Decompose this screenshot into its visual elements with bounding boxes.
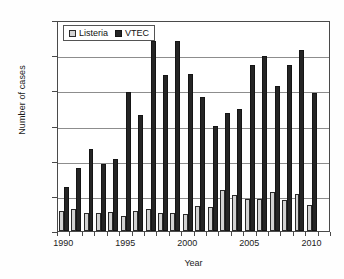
x-tick-mark: [57, 232, 58, 236]
x-tick-label: 1995: [105, 238, 145, 248]
x-tick-label: 2010: [291, 238, 331, 248]
bar-vtec-1998: [163, 75, 168, 231]
legend-item-vtec: VTEC: [115, 28, 149, 38]
x-tick-mark: [243, 232, 244, 236]
x-tick-mark: [206, 232, 207, 236]
x-tick-mark: [231, 232, 232, 236]
x-tick-mark: [330, 232, 331, 236]
bar-vtec-2009: [299, 50, 304, 231]
x-tick-label: 2005: [229, 238, 269, 248]
bar-vtec-1994: [113, 159, 118, 231]
bar-vtec-2008: [287, 65, 292, 231]
x-tick-mark: [218, 232, 219, 236]
legend-swatch-vtec-icon: [115, 30, 122, 37]
legend-label-vtec: VTEC: [125, 28, 149, 38]
bar-vtec-2004: [237, 109, 242, 231]
y-axis-label: Number of cases: [17, 30, 27, 170]
bar-vtec-2006: [262, 56, 267, 231]
bar-vtec-1990: [64, 187, 69, 231]
x-tick-mark: [318, 232, 319, 236]
bar-vtec-1996: [138, 115, 143, 231]
legend-label-listeria: Listeria: [79, 28, 108, 38]
bar-vtec-2002: [213, 126, 218, 231]
bar-vtec-1995: [126, 92, 131, 231]
x-tick-mark: [256, 232, 257, 236]
x-tick-mark: [156, 232, 157, 236]
bar-vtec-1997: [151, 41, 156, 231]
x-tick-label: 2000: [167, 238, 207, 248]
bar-vtec-1993: [101, 164, 106, 231]
x-tick-mark: [69, 232, 70, 236]
x-tick-label: 1990: [43, 238, 83, 248]
x-tick-mark: [119, 232, 120, 236]
x-tick-mark: [305, 232, 306, 236]
bar-vtec-2000: [188, 74, 193, 231]
x-tick-mark: [194, 232, 195, 236]
x-tick-mark: [94, 232, 95, 236]
x-tick-mark: [181, 232, 182, 236]
x-tick-mark: [293, 232, 294, 236]
x-tick-mark: [132, 232, 133, 236]
bar-vtec-2003: [225, 113, 230, 231]
x-axis-label: Year: [57, 258, 330, 268]
x-tick-mark: [280, 232, 281, 236]
legend-swatch-listeria-icon: [69, 30, 76, 37]
bar-series-layer: [58, 22, 329, 231]
bar-chart-figure: Number of cases Year 0200400600800100012…: [0, 0, 344, 279]
bar-vtec-1991: [76, 168, 81, 231]
legend-item-listeria: Listeria: [69, 28, 108, 38]
bar-vtec-2005: [250, 65, 255, 231]
plot-area: [57, 21, 330, 232]
bar-vtec-1992: [89, 149, 94, 231]
x-tick-mark: [107, 232, 108, 236]
bar-vtec-2007: [275, 86, 280, 231]
x-tick-mark: [144, 232, 145, 236]
bar-vtec-2010: [312, 93, 317, 231]
bar-vtec-1999: [175, 41, 180, 231]
bar-vtec-2001: [200, 97, 205, 231]
x-tick-mark: [169, 232, 170, 236]
chart-legend: Listeria VTEC: [63, 25, 155, 41]
x-tick-mark: [268, 232, 269, 236]
x-tick-mark: [82, 232, 83, 236]
